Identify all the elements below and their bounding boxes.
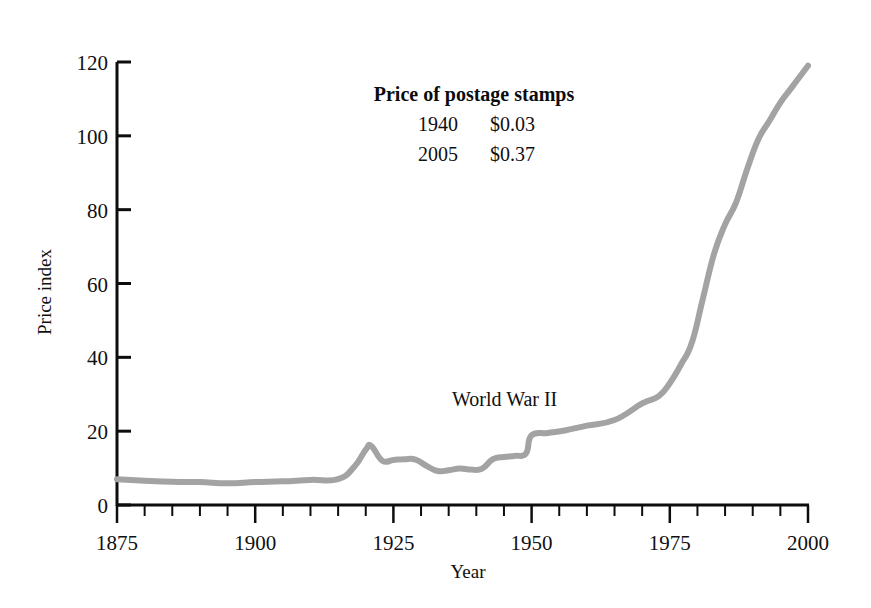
x-tick-label-1925: 1925 [372, 531, 414, 555]
x-tick-label-1975: 1975 [649, 531, 691, 555]
price-index-series-line [117, 66, 808, 484]
world-war-ii-label: World War II [452, 388, 557, 410]
y-tick-label-120: 120 [77, 51, 109, 75]
x-axis-tick-labels: 187519001925195019752000 [96, 531, 829, 555]
callout-title: Price of postage stamps [374, 83, 575, 106]
y-tick-label-0: 0 [98, 494, 109, 518]
x-axis-title: Year [450, 561, 486, 582]
callout-row-0-year: 1940 [418, 113, 458, 135]
callout-row-1-price: $0.37 [490, 143, 535, 165]
x-tick-label-2000: 2000 [787, 531, 829, 555]
chart-figure: 020406080100120 187519001925195019752000… [0, 0, 871, 608]
x-axis-ticks [117, 505, 808, 523]
callout-row-1-year: 2005 [418, 143, 458, 165]
y-axis-title: Price index [34, 249, 55, 336]
callout-row-0-price: $0.03 [490, 113, 535, 135]
y-axis-ticks [117, 62, 131, 505]
y-tick-label-40: 40 [87, 346, 108, 370]
y-tick-label-60: 60 [87, 273, 108, 297]
y-tick-label-100: 100 [77, 125, 109, 149]
y-axis-tick-labels: 020406080100120 [77, 51, 109, 518]
x-tick-label-1900: 1900 [234, 531, 276, 555]
y-tick-label-20: 20 [87, 420, 108, 444]
price-index-line-chart: 020406080100120 187519001925195019752000… [0, 0, 871, 608]
postage-stamps-callout: Price of postage stamps 1940 $0.03 2005 … [374, 83, 575, 165]
y-tick-label-80: 80 [87, 199, 108, 223]
x-axis-minor-ticks [145, 505, 781, 516]
x-tick-label-1950: 1950 [511, 531, 553, 555]
x-tick-label-1875: 1875 [96, 531, 138, 555]
